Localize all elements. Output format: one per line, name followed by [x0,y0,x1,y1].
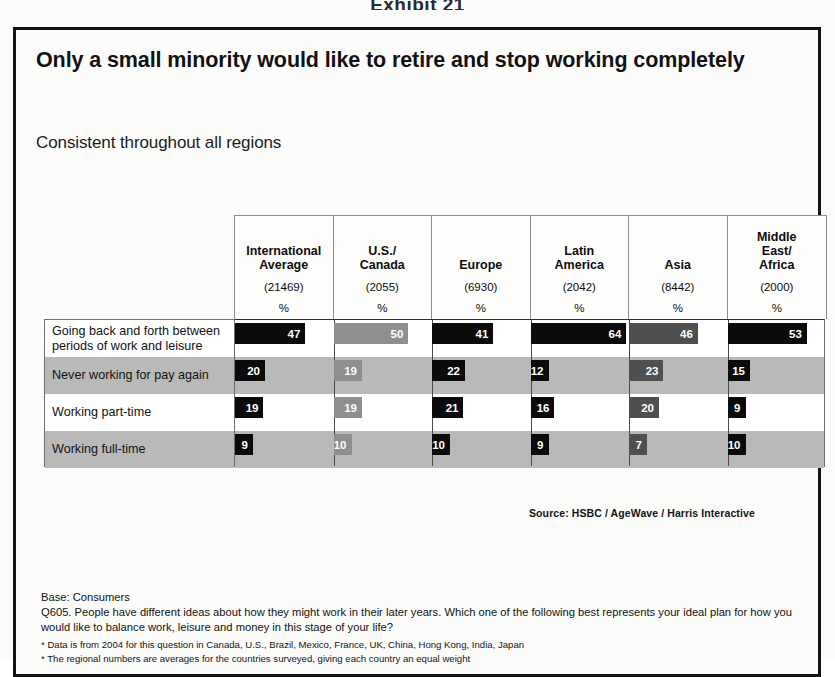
footnotes: Base: Consumers Q605. People have differ… [41,590,801,666]
row-label: Working part-time [45,394,234,431]
column-header: Asia(8442)% [629,216,728,319]
bar: 46 [629,323,698,344]
column-header: International Average(21469)% [235,216,334,319]
column-header-name: Latin America [555,244,604,272]
table-header-row: International Average(21469)%U.S./ Canad… [234,215,827,319]
column-header-base: (2042) [563,281,596,293]
bar: 16 [531,397,555,418]
bar: 9 [531,434,549,455]
bar: 12 [531,360,549,381]
bar: 20 [629,397,659,418]
column-header-unit: % [476,302,486,314]
row-label: Never working for pay again [45,357,234,394]
bar: 41 [432,323,493,344]
column-header-unit: % [279,302,289,314]
bar: 20 [235,360,265,381]
column-header-name: Middle East/ Africa [757,230,797,272]
bar: 7 [629,434,647,455]
bar: 23 [629,360,663,381]
column-header: Europe(6930)% [432,216,531,319]
column-header-name: International Average [246,244,321,272]
footnote-base: Base: Consumers [41,590,801,605]
footnote-note-1: * Data is from 2004 for this question in… [41,638,801,652]
column-header-name: U.S./ Canada [360,244,405,272]
exhibit-caption: Exhibit 21 [0,0,835,10]
bar: 19 [334,397,362,418]
row-label-column: Going back and forth between periods of … [44,319,235,467]
bar-plot-grid: 4720199501919104122211064121694623207531… [234,319,825,467]
column-header-base: (21469) [264,281,304,293]
bar: 53 [728,323,807,344]
footnote-note-2: * The regional numbers are averages for … [41,652,801,666]
column-header-unit: % [377,302,387,314]
bar: 9 [728,397,746,418]
bar: 50 [334,323,409,344]
bar: 10 [432,434,450,455]
slide-frame: Only a small minority would like to reti… [13,27,821,677]
column-header: Middle East/ Africa(2000)% [728,216,827,319]
chart-table: International Average(21469)%U.S./ Canad… [31,215,811,470]
page-title: Only a small minority would like to reti… [36,47,766,74]
page-subtitle: Consistent throughout all regions [36,133,281,153]
bar: 9 [235,434,253,455]
bar: 22 [432,360,465,381]
column-header-name: Europe [459,258,502,272]
footnote-question: Q605. People have different ideas about … [41,605,801,635]
column-header-base: (2055) [366,281,399,293]
column-header: Latin America(2042)% [531,216,630,319]
bar: 10 [728,434,746,455]
bar: 21 [432,397,463,418]
bar: 19 [334,360,362,381]
column-header-unit: % [772,302,782,314]
column-header: U.S./ Canada(2055)% [334,216,433,319]
bar: 19 [235,397,263,418]
bar: 10 [334,434,352,455]
source-line: Source: HSBC / AgeWave / Harris Interact… [529,507,755,519]
row-label: Working full-time [45,431,234,468]
row-label: Going back and forth between periods of … [45,320,234,357]
column-header-unit: % [673,302,683,314]
column-header-name: Asia [665,258,691,272]
bar: 15 [728,360,750,381]
bar: 64 [531,323,627,344]
column-header-unit: % [574,302,584,314]
bar: 47 [235,323,305,344]
column-header-base: (8442) [661,281,694,293]
column-header-base: (2000) [760,281,793,293]
column-header-base: (6930) [464,281,497,293]
